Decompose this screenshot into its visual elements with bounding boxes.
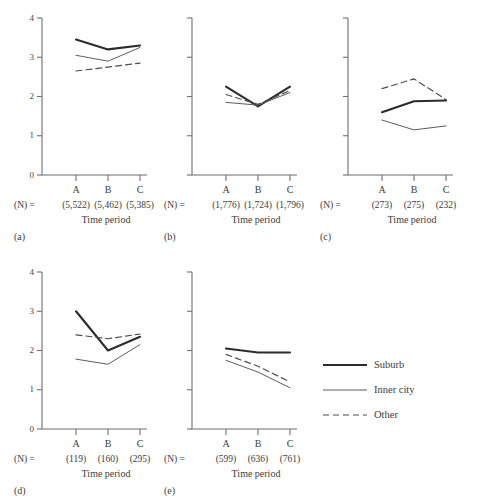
- chart-panel-a: 01234ABC(N) =(5,522)(5,462)(5,385)Time p…: [14, 8, 154, 193]
- legend-label-inner-city: Inner city: [368, 384, 415, 395]
- x-tick-label-B: B: [105, 438, 112, 447]
- sample-size-prefix: (N) =: [164, 200, 185, 210]
- chart-panel-e: ABC(N) =(599)(636)(761)Time period(e): [164, 262, 304, 447]
- legend-label-other: Other: [368, 409, 398, 420]
- series-line-suburb-a: [76, 40, 140, 50]
- x-axis-title-e: Time period: [196, 468, 316, 479]
- series-line-suburb-c: [382, 100, 446, 112]
- series-line-suburb-e: [226, 349, 290, 353]
- sample-size-value-C: (295): [120, 454, 160, 464]
- panel-tag-c: (c): [320, 231, 331, 242]
- x-tick-label-C: C: [137, 184, 144, 193]
- x-axis-title-d: Time period: [46, 468, 166, 479]
- x-tick-label-A: A: [72, 438, 80, 447]
- sample-size-prefix: (N) =: [164, 454, 185, 464]
- x-tick-label-C: C: [443, 184, 450, 193]
- series-line-other-c: [382, 79, 446, 100]
- series-line-inner-city-b: [226, 93, 290, 106]
- panel-tag-b: (b): [164, 231, 176, 242]
- x-tick-label-B: B: [105, 184, 112, 193]
- x-tick-label-A: A: [222, 184, 230, 193]
- chart-panel-c: ABC(N) =(273)(275)(232)Time period(c): [320, 8, 460, 193]
- legend-swatch-suburb-icon: [322, 360, 368, 370]
- series-line-inner-city-e: [226, 360, 290, 387]
- sample-size-value-C: (761): [270, 454, 310, 464]
- y-tick-label-0: 0: [30, 424, 35, 434]
- legend-swatch-inner-city-icon: [322, 385, 368, 395]
- x-tick-label-A: A: [72, 184, 80, 193]
- sample-size-value-C: (5,385): [120, 200, 160, 210]
- sample-size-value-C: (232): [426, 200, 466, 210]
- series-line-suburb-d: [76, 311, 140, 350]
- x-tick-label-C: C: [137, 438, 144, 447]
- legend-item-inner-city: Inner city: [322, 377, 472, 402]
- axis-lines: [348, 18, 453, 175]
- y-tick-label-2: 2: [30, 91, 35, 101]
- series-line-inner-city-c: [382, 120, 446, 130]
- series-line-other-e: [226, 354, 290, 381]
- plot-area-a: 01234ABC: [14, 8, 154, 193]
- legend-swatch-other-icon: [322, 410, 368, 420]
- plot-area-c: ABC: [320, 8, 460, 193]
- figure-panel-grid: 01234ABC(N) =(5,522)(5,462)(5,385)Time p…: [0, 0, 479, 501]
- x-axis-title-c: Time period: [352, 214, 472, 225]
- x-tick-label-B: B: [255, 438, 262, 447]
- series-line-other-a: [76, 63, 140, 71]
- x-tick-label-B: B: [411, 184, 418, 193]
- series-line-inner-city-d: [76, 345, 140, 365]
- chart-panel-b: ABC(N) =(1,776)(1,724)(1,796)Time period…: [164, 8, 304, 193]
- sample-size-prefix: (N) =: [320, 200, 341, 210]
- panel-tag-d: (d): [14, 485, 26, 496]
- sample-size-prefix: (N) =: [14, 200, 35, 210]
- y-tick-label-1: 1: [30, 384, 35, 394]
- chart-legend: SuburbInner cityOther: [322, 352, 472, 427]
- legend-item-other: Other: [322, 402, 472, 427]
- panel-tag-a: (a): [14, 231, 25, 242]
- axis-lines: [42, 18, 147, 175]
- x-tick-label-A: A: [378, 184, 386, 193]
- x-axis-title-b: Time period: [196, 214, 316, 225]
- y-tick-label-2: 2: [30, 345, 35, 355]
- plot-area-b: ABC: [164, 8, 304, 193]
- y-tick-label-1: 1: [30, 130, 35, 140]
- x-tick-label-C: C: [287, 184, 294, 193]
- plot-area-d: 01234ABC: [14, 262, 154, 447]
- panel-tag-e: (e): [164, 485, 175, 496]
- y-tick-label-0: 0: [30, 170, 35, 180]
- chart-panel-d: 01234ABC(N) =(119)(160)(295)Time period(…: [14, 262, 154, 447]
- x-tick-label-B: B: [255, 184, 262, 193]
- x-axis-title-a: Time period: [46, 214, 166, 225]
- x-tick-label-C: C: [287, 438, 294, 447]
- x-tick-label-A: A: [222, 438, 230, 447]
- sample-size-value-C: (1,796): [270, 200, 310, 210]
- sample-size-prefix: (N) =: [14, 454, 35, 464]
- legend-label-suburb: Suburb: [368, 359, 404, 370]
- plot-area-e: ABC: [164, 262, 304, 447]
- legend-item-suburb: Suburb: [322, 352, 472, 377]
- y-tick-label-3: 3: [30, 306, 35, 316]
- series-line-other-d: [76, 334, 140, 339]
- y-tick-label-4: 4: [30, 13, 35, 23]
- y-tick-label-4: 4: [30, 267, 35, 277]
- y-tick-label-3: 3: [30, 52, 35, 62]
